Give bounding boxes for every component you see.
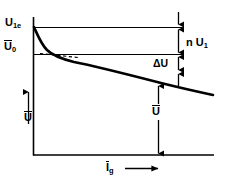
- label-u0-sub: 0: [12, 45, 16, 54]
- y-axis-label-symbol: U: [24, 112, 32, 123]
- label-n-u1-prefix: n: [186, 36, 196, 48]
- diagram-canvas: [0, 0, 225, 183]
- voltage-grid-current-diagram: U1e U0 n U1 ΔU U U Ig: [0, 0, 225, 183]
- label-n-u1-sub: 1: [204, 41, 208, 50]
- label-u1e-symbol: U: [5, 16, 13, 28]
- label-delta-u: ΔU: [153, 58, 168, 69]
- label-u1e-sub: 1e: [13, 21, 21, 30]
- x-axis-label-sub: g: [109, 166, 114, 175]
- label-u1e: U1e: [5, 17, 21, 28]
- label-u0-symbol: U: [4, 41, 12, 52]
- label-u-mean: U: [152, 106, 160, 117]
- label-n-u1: n U1: [186, 37, 208, 48]
- y-axis-label: U: [24, 112, 32, 123]
- reference-lines: [33, 28, 184, 55]
- label-n-u1-symbol: U: [196, 36, 204, 48]
- x-axis-label: Ig: [106, 162, 114, 173]
- label-u-mean-symbol: U: [152, 106, 160, 117]
- label-u0: U0: [4, 41, 16, 52]
